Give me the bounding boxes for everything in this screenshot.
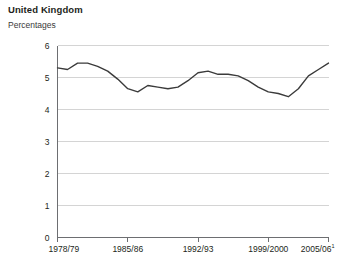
gridlines (58, 46, 329, 206)
plot-area: 0123456 1978/791985/861992/931999/200020… (0, 0, 340, 260)
y-axis-tick-label: 1 (45, 201, 50, 211)
y-axis-tick-label: 2 (45, 169, 50, 179)
data-series-group (58, 63, 329, 97)
chart-figure: United Kingdom Percentages 0123456 1978/… (0, 0, 340, 260)
y-axis-tick-label: 5 (45, 73, 50, 83)
y-axis-tick-labels: 0123456 (45, 41, 50, 243)
footnote-marker: 1 (331, 243, 334, 249)
x-axis-tick-labels: 1978/791985/861992/931999/20002005/061 (49, 243, 335, 254)
y-axis-tick-label: 4 (45, 105, 50, 115)
line-chart-svg: 0123456 1978/791985/861992/931999/200020… (0, 0, 340, 260)
y-axis-tick-label: 6 (45, 41, 50, 51)
x-axis-tick-label: 1992/93 (183, 244, 214, 254)
x-axis-tick-marks (58, 238, 329, 242)
x-axis-tick-label: 1999/2000 (248, 244, 288, 254)
x-axis-tick-label: 1985/86 (112, 244, 143, 254)
x-axis-tick-label: 2005/061 (301, 243, 335, 254)
y-axis-tick-label: 0 (45, 233, 50, 243)
data-series-line (58, 63, 329, 97)
x-axis-tick-label: 1978/79 (49, 244, 80, 254)
y-axis-tick-label: 3 (45, 137, 50, 147)
